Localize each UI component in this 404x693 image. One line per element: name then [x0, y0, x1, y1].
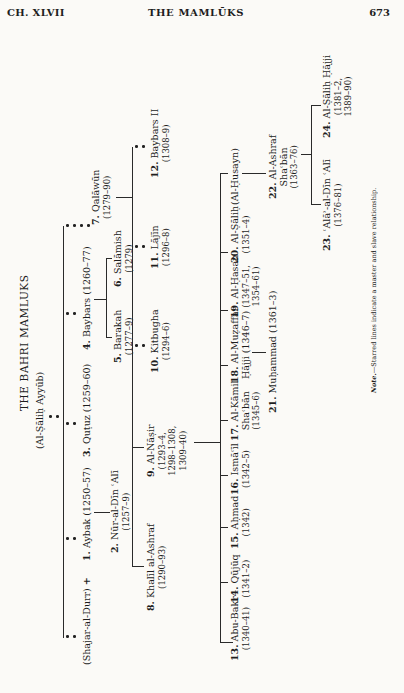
bracket-line: [220, 173, 221, 643]
descent-line: [252, 352, 266, 353]
ruler-8-khalil-al-ashraf: 8. Khalīl al-Ashraf (1290–93): [146, 524, 167, 611]
ruler-2-nur-al-din-ali: 2. Nūr-al-Dīn ʿAlī (1257–9): [110, 470, 131, 553]
ruler-14-qujuq: 14. Qūjūq (1341–2): [230, 554, 251, 603]
descent-line: [220, 420, 228, 421]
ruler-7-qalawun: 7. Qalāwūn (1279–90): [91, 170, 112, 225]
descent-line: [94, 299, 106, 300]
bracket-line: [132, 147, 133, 567]
ruler-24-al-salih-hajji: 24. Al-Ṣāliḥ Ḥājji (1381–2, 1389–90): [322, 55, 354, 138]
ruler-6-salamish: 6. Salāmish (1279): [113, 230, 134, 287]
bracket-line: [311, 105, 312, 205]
root-ancestor: (Al-Ṣāliḥ Ayyūb): [35, 372, 46, 449]
master-slave-dot: [73, 224, 76, 227]
master-slave-dot: [142, 245, 145, 248]
ruler-23-ala-al-din-ali: 23. ʿAlāʾ-al-Dīn ʿAlī (1376–81): [322, 159, 343, 251]
master-slave-dot: [49, 415, 52, 418]
descent-line: [220, 252, 228, 253]
descent-line: [301, 154, 311, 155]
descent-line: [220, 310, 228, 311]
master-slave-dot: [66, 537, 69, 540]
master-slave-dot: [135, 245, 138, 248]
ruler-21-muhammad: 21. Muḥammad (1361–3): [268, 291, 279, 413]
chart-title: THE BAHRI MAMLUKS: [18, 274, 30, 411]
bracket-line: [63, 226, 64, 638]
ruler-13-abu-bakr: 13. Abu-Bakr (1340–41): [230, 596, 251, 661]
ruler-11-lajin: 11. Lājīn (1296–8): [150, 225, 171, 269]
descent-line: [242, 173, 266, 174]
descent-line: [220, 173, 228, 174]
master-slave-dot: [135, 145, 138, 148]
descent-line: [311, 204, 321, 205]
descent-line: [116, 197, 132, 198]
master-slave-dot: [56, 415, 59, 418]
descent-line: [132, 566, 144, 567]
ruler-18-al-muzaffar-hajji: 18. Al-Muẓaffar Ḥājji (1346–7): [230, 307, 251, 383]
ruler-17-al-kamil-shaban: 17. Al-Kāmil Shaʿbān (1345–6): [230, 380, 262, 441]
descent-line: [311, 105, 321, 106]
ruler-1-aybak: 1. Aybak (1250–57): [82, 467, 93, 561]
ruler-22-al-ashraf-shaban: 22. Al-Ashraf Shaʿbān (1363–76): [268, 135, 300, 199]
descent-line: [194, 442, 220, 443]
master-slave-dot: [73, 312, 76, 315]
master-slave-dot: [73, 635, 76, 638]
ruler-12-baybars-ii: 12. Baybars II (1308–9): [150, 109, 171, 178]
descent-line: [220, 582, 228, 583]
master-slave-dot: [66, 224, 69, 227]
chapter-label: CH. XLVII: [7, 7, 65, 18]
descent-line: [220, 475, 228, 476]
ruler-10-kitbugha: 10. Kitbugha (1294–6): [150, 309, 171, 373]
running-title: THE MAMLŪKS: [148, 7, 244, 18]
descent-line: [94, 512, 110, 513]
master-slave-dot: [66, 312, 69, 315]
master-slave-dot: [73, 422, 76, 425]
master-slave-dot: [66, 635, 69, 638]
descent-line: [220, 365, 228, 366]
master-slave-dot: [135, 344, 138, 347]
al-husayn: (Al-Ḥusayn): [230, 148, 241, 205]
master-slave-dot: [142, 344, 145, 347]
ruler-20-al-salih: 20. Al-Ṣāliḥ (1351–4): [230, 206, 251, 263]
bracket-line: [106, 258, 107, 338]
master-slave-dot: [66, 422, 69, 425]
genealogy-chart: THE BAHRI MAMLUKS (Al-Ṣāliḥ Ayyūb) (Shaj…: [18, 33, 403, 683]
descent-line: [220, 527, 228, 528]
ruler-3-qutuz: 3. Quṭuz (1259–60): [82, 364, 93, 457]
page-number: 673: [369, 7, 390, 18]
master-slave-dot: [80, 224, 83, 227]
ruler-15-ahmad: 15. Aḥmad (1342): [230, 496, 251, 549]
descent-line: [132, 447, 144, 448]
chart-note: Note.—Starred lines indicate a master an…: [370, 188, 378, 393]
ruler-16-ismail: 16. Ismāʿīl (1342–5): [230, 443, 251, 495]
ruler-9-al-nasir: 9. Al-Nāṣir (1293–4, 1298–1308, 1309–40): [146, 425, 188, 478]
ruler-4-baybars: 4. Baybars (1260–77): [82, 246, 93, 350]
ruler-shajar-al-durr: (Shajar-al-Durr) +: [82, 577, 93, 665]
ruler-5-barakah: 5. Barakah (1277–9): [113, 310, 134, 363]
master-slave-dot: [73, 537, 76, 540]
master-slave-dot: [142, 145, 145, 148]
ruler-19-al-hasan: 19. Al-Ḥasan (1347–51, 1354–61): [230, 255, 262, 318]
